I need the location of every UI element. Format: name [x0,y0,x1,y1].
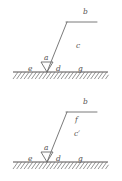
support-wedge-icon [41,152,53,162]
support-wedge-icon [41,62,53,72]
top-diagram: b c a e d g [0,0,122,90]
label-f-bottom: f [75,116,78,124]
label-e-top: e [28,65,32,73]
label-b-bottom: b [83,98,88,106]
bottom-diagram: b f c′ a e d g [0,90,122,181]
label-a-top: a [44,54,48,62]
ground-hatching [13,162,109,169]
label-b-top: b [83,8,88,16]
label-g-top: g [78,65,83,73]
label-g-bottom: g [78,155,83,163]
label-e-bottom: e [28,155,32,163]
label-c-top: c [76,42,80,50]
bottom-diagram-graphic [0,90,122,180]
label-c-prime-bottom: c′ [74,130,80,138]
ground-hatching [13,72,109,79]
label-d-bottom: d [56,155,61,163]
label-a-bottom: a [44,144,48,152]
top-diagram-graphic [0,0,122,90]
label-d-top: d [56,65,61,73]
